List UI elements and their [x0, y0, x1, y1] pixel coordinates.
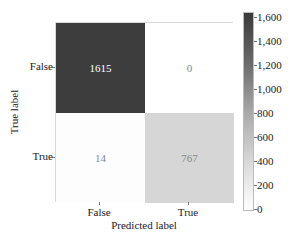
y-tick-label-true: True: [33, 150, 53, 162]
cell-false-false: 1615: [56, 23, 145, 113]
x-tick-mark: [99, 202, 100, 205]
y-axis-label: True label: [8, 90, 20, 135]
colorbar-tick-600: 600: [257, 131, 274, 143]
colorbar-tick-200: 200: [257, 179, 274, 191]
x-tick-label-false: False: [69, 206, 129, 218]
colorbar: [243, 12, 254, 211]
cell-value: 0: [187, 62, 193, 74]
colorbar-tick-1600: 1,600: [257, 11, 282, 23]
y-tick-label-false: False: [30, 60, 53, 72]
cell-false-true: 0: [145, 23, 234, 113]
cell-value: 1615: [90, 62, 112, 74]
x-axis-label: Predicted label: [111, 219, 177, 231]
x-tick-mark: [188, 202, 189, 205]
confusion-matrix: 1615 0 14 767: [55, 22, 233, 202]
colorbar-tick-400: 400: [257, 155, 274, 167]
colorbar-tick-0: 0: [257, 203, 263, 215]
colorbar-tick-800: 800: [257, 107, 274, 119]
cell-value: 14: [95, 152, 106, 164]
colorbar-tick-1400: 1,400: [257, 35, 282, 47]
cell-true-false: 14: [56, 113, 145, 203]
colorbar-tick-1200: 1,200: [257, 59, 282, 71]
x-tick-label-true: True: [158, 206, 218, 218]
cell-value: 767: [181, 152, 198, 164]
colorbar-tick-1000: 1,000: [257, 83, 282, 95]
cell-true-true: 767: [145, 113, 234, 203]
